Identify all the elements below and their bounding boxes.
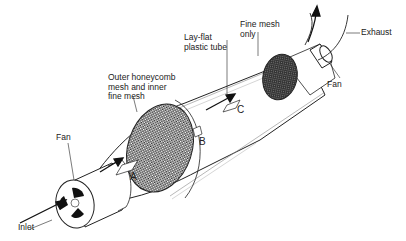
label-exhaust: Exhaust: [361, 28, 392, 38]
label-point-b: B: [199, 137, 206, 147]
label-outlet-fan: Fan: [327, 80, 342, 90]
label-outer-mesh: Outer honeycomb mesh and inner fine mesh: [108, 73, 176, 102]
label-point-a: A: [130, 172, 137, 182]
label-tube: Lay-flat plastic tube: [184, 33, 227, 52]
label-inlet: Inlet: [18, 223, 34, 233]
diagram-canvas: Inlet Fan Outer honeycomb mesh and inner…: [0, 0, 406, 241]
label-inlet-fan: Fan: [56, 133, 71, 143]
label-point-c: C: [237, 105, 244, 115]
label-fine-mesh: Fine mesh only: [240, 20, 280, 39]
inlet-arrow-icon: [20, 202, 62, 223]
